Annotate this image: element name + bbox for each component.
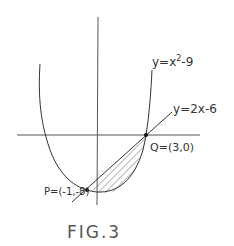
point-p-label: P=(-1,-8) [44, 186, 89, 197]
figure-canvas: y=x2-9 y=2x-6 Q=(3,0) P=(-1,-8) FIG.3 [0, 0, 234, 246]
parabola-curve [39, 64, 152, 192]
point-q-label: Q=(3,0) [150, 141, 194, 154]
point-q [144, 133, 148, 137]
y-axis [97, 17, 98, 205]
figure-caption: FIG.3 [67, 222, 121, 242]
line-label: y=2x-6 [173, 102, 217, 116]
parabola-label: y=x2-9 [152, 54, 193, 69]
